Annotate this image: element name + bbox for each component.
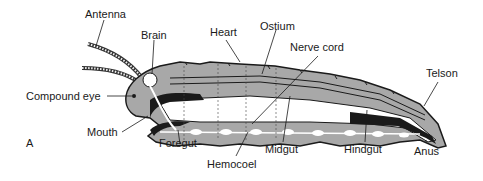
label-panel-letter: A: [26, 137, 33, 149]
label-foregut: Foregut: [159, 137, 197, 149]
label-heart: Heart: [210, 26, 237, 38]
label-hemocoel: Hemocoel: [207, 158, 257, 170]
antennae: [82, 44, 142, 83]
label-brain: Brain: [141, 29, 167, 41]
brain-shape: [143, 73, 157, 87]
label-anus: Anus: [414, 145, 439, 157]
compound-eye-shape: [132, 94, 136, 98]
label-hindgut: Hindgut: [344, 143, 382, 155]
label-midgut: Midgut: [265, 143, 298, 155]
label-ostium: Ostium: [260, 20, 295, 32]
label-nerve-cord: Nerve cord: [290, 41, 344, 53]
label-antenna: Antenna: [85, 8, 126, 20]
insect-anatomy-diagram: Antenna Brain Heart Ostium Nerve cord Te…: [0, 0, 483, 181]
label-compound-eye: Compound eye: [26, 90, 101, 102]
label-mouth: Mouth: [87, 126, 118, 138]
label-telson: Telson: [426, 67, 458, 79]
